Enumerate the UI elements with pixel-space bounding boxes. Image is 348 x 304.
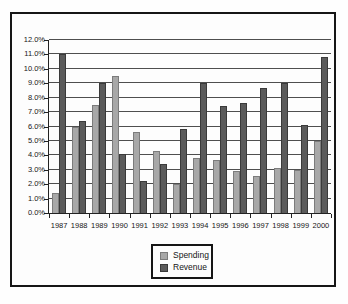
bar-group-1999 [291,40,311,213]
x-tick [150,214,151,218]
bar-spending-1989 [92,105,99,213]
y-tick-label: 4.0% [12,151,45,159]
x-tick [250,214,251,218]
revenue-swatch-icon [160,264,168,272]
y-tick-label: 11.0% [12,50,45,58]
chart-frame: 0.0%1.0%2.0%3.0%4.0%5.0%6.0%7.0%8.0%9.0%… [10,12,336,287]
bar-revenue-1994 [200,83,207,213]
legend-item-revenue: Revenue [160,263,211,272]
bar-spending-1994 [193,158,200,213]
bar-revenue-1990 [119,154,126,213]
x-tick [210,214,211,218]
bar-spending-1997 [253,176,260,213]
x-tick [331,214,332,218]
bar-group-1997 [250,40,270,213]
bar-spending-1993 [173,184,180,213]
bar-group-1989 [89,40,109,213]
y-tick-label: 2.0% [12,180,45,188]
y-tick-label: 8.0% [12,94,45,102]
legend: SpendingRevenue [151,244,213,279]
bar-revenue-1988 [79,121,86,213]
bar-revenue-1991 [140,181,147,213]
x-tick [271,214,272,218]
bar-group-1987 [49,40,69,213]
spending-swatch-icon [160,252,168,260]
y-tick-label: 6.0% [12,123,45,131]
legend-item-spending: Spending [160,251,211,260]
bar-spending-2000 [314,141,321,213]
x-tick [291,214,292,218]
x-tick [89,214,90,218]
bar-spending-1995 [213,160,220,213]
bar-revenue-1995 [220,106,227,213]
x-tick [130,214,131,218]
bar-revenue-1992 [160,164,167,213]
x-tick [109,214,110,218]
x-tick-label: 2000 [307,222,335,230]
y-tick-label: 5.0% [12,137,45,145]
bar-spending-1988 [72,127,79,214]
x-tick [49,214,50,218]
bar-revenue-1997 [260,88,267,213]
bar-group-1995 [210,40,230,213]
legend-label: Spending [173,251,209,260]
bar-spending-1991 [133,132,140,213]
x-tick [170,214,171,218]
bar-spending-1999 [294,170,301,213]
bar-spending-1987 [52,193,59,213]
y-tick-label: 12.0% [12,36,45,44]
bar-spending-1992 [153,151,160,213]
bar-group-1994 [190,40,210,213]
bar-revenue-1996 [240,103,247,213]
bar-group-1991 [130,40,150,213]
y-tick-label: 9.0% [12,79,45,87]
bar-spending-1996 [233,171,240,213]
chart-window: 0.0%1.0%2.0%3.0%4.0%5.0%6.0%7.0%8.0%9.0%… [0,0,348,304]
y-tick-label: 0.0% [12,209,45,217]
bar-group-1990 [109,40,129,213]
bar-revenue-1993 [180,129,187,213]
x-tick [230,214,231,218]
bar-group-2000 [311,40,331,213]
legend-label: Revenue [173,263,207,272]
bar-revenue-2000 [321,57,328,213]
bar-group-1988 [69,40,89,213]
y-tick-label: 7.0% [12,108,45,116]
y-tick-label: 3.0% [12,166,45,174]
bar-group-1992 [150,40,170,213]
bar-spending-1990 [112,76,119,213]
bar-revenue-1989 [99,83,106,213]
bar-group-1996 [230,40,250,213]
y-tick-label: 1.0% [12,195,45,203]
plot-area [48,40,331,214]
bar-group-1998 [271,40,291,213]
bar-group-1993 [170,40,190,213]
bar-revenue-1987 [59,54,66,213]
bar-revenue-1999 [301,125,308,213]
bar-revenue-1998 [281,83,288,213]
bar-spending-1998 [274,168,281,213]
x-tick [311,214,312,218]
x-tick [190,214,191,218]
x-tick [69,214,70,218]
y-tick-label: 10.0% [12,65,45,73]
